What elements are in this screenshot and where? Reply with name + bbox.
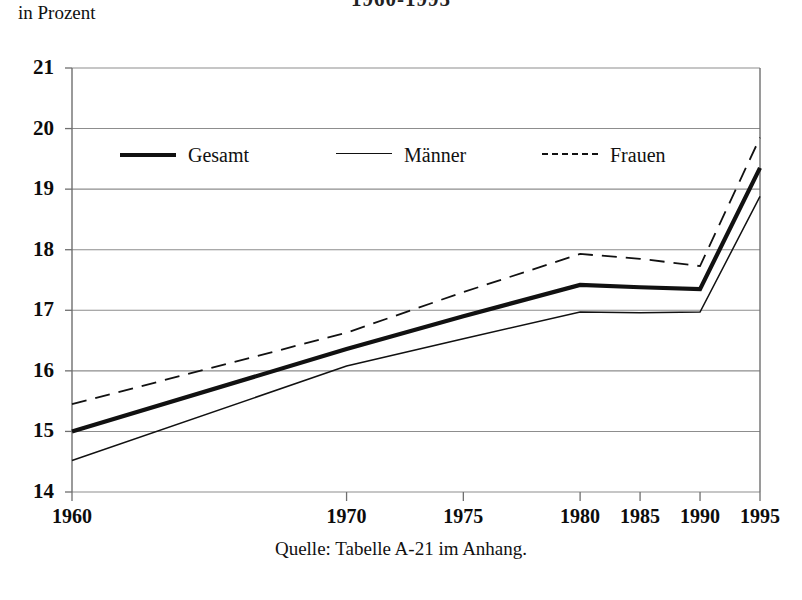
data-series-group	[72, 138, 760, 461]
gridlines-group	[72, 68, 760, 492]
x-axis-tick-label: 1975	[423, 506, 503, 526]
y-axis-tick-label: 21	[14, 57, 54, 78]
legend-label: Frauen	[610, 140, 666, 170]
legend-line-swatch	[336, 153, 392, 154]
chart-figure: 1960-1995 in Prozent 2120191817161514 19…	[0, 0, 802, 600]
y-axis-tick-label: 20	[14, 118, 54, 139]
y-axis-tick-label: 14	[14, 481, 54, 502]
y-axis-tick-label: 18	[14, 239, 54, 260]
x-axis-tick-label: 1960	[32, 506, 112, 526]
y-axis-tick-label: 19	[14, 178, 54, 199]
legend-line-swatch	[542, 153, 598, 155]
y-axis-tick-label: 15	[14, 420, 54, 441]
series-line-frauen	[72, 138, 760, 405]
y-axis-tick-label: 16	[14, 360, 54, 381]
x-axis-ticks	[72, 492, 760, 501]
legend-label: Gesamt	[188, 140, 249, 170]
legend-line-swatch	[120, 153, 176, 157]
y-axis-tick-label: 17	[14, 299, 54, 320]
series-line-gesamt	[72, 168, 760, 431]
source-note: Quelle: Tabelle A-21 im Anhang.	[0, 538, 802, 560]
x-axis-tick-label: 1995	[720, 506, 800, 526]
chart-legend: GesamtMännerFrauen	[120, 140, 680, 174]
plot-frame	[65, 68, 760, 492]
legend-label: Männer	[404, 140, 466, 170]
x-axis-tick-label: 1970	[307, 506, 387, 526]
